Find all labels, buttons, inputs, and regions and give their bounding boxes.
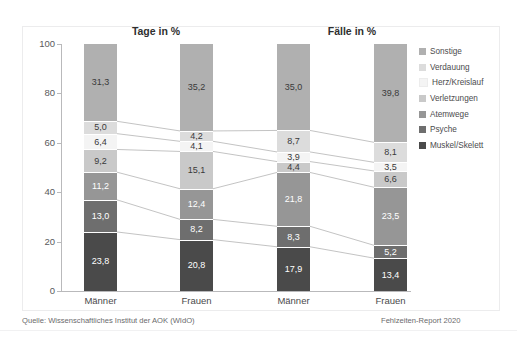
legend-item-label: Verletzungen [430,94,478,103]
y-axis-tick-label: 60 [15,137,55,148]
bar-segment-value: 35,0 [285,83,303,92]
bar-segment-value: 20,8 [188,261,206,270]
bar-segment: 23,5 [374,187,407,245]
source-note: Quelle: Wissenschaftliches Institut der … [22,316,195,325]
legend-swatch-icon [419,142,426,149]
legend-swatch-icon [419,64,426,71]
bar-segment: 4,4 [277,162,310,173]
bar-segment-value: 12,4 [188,200,206,209]
bar-segment-value: 8,7 [287,137,300,146]
legend-item-label: Sonstige [430,47,462,56]
bar-segment: 15,1 [180,151,213,188]
bar-segment: 20,8 [180,240,213,291]
y-axis-tick-label: 80 [15,87,55,98]
panel-title-tage: Tage in % [96,25,216,37]
x-axis-label: Frauen [346,295,436,306]
legend-item[interactable]: Atemwege [419,106,515,122]
report-note: Fehlzeiten-Report 2020 [381,316,460,325]
bar-segment: 8,1 [374,142,407,162]
stacked-bar: 31,35,06,49,211,213,023,8 [84,44,117,291]
legend-item[interactable]: Psyche [419,122,515,138]
y-axis-tick-label-wrap: 100 [10,44,55,45]
bar-segment-value: 3,9 [287,153,300,162]
bar-segment: 9,2 [84,149,117,172]
legend-swatch-icon [419,78,428,87]
y-axis-tick [57,291,62,292]
stacked-bar: 35,24,24,115,112,48,220,8 [180,44,213,291]
y-axis-tick-label-wrap: 20 [10,242,55,243]
bar-segment-value: 35,2 [188,83,206,92]
legend-item-label: Muskel/Skelett [430,141,483,150]
y-axis-tick [57,192,62,193]
x-axis-line [61,291,411,292]
bar-segment-value: 6,4 [94,138,107,147]
bar-segment: 35,2 [180,44,213,131]
bar-segment: 3,5 [374,162,407,171]
bar-segment: 17,9 [277,247,310,291]
y-axis-tick [57,44,62,45]
bar-segment-value: 23,5 [382,212,400,221]
legend-item-label: Herz/Kreislauf [432,78,483,87]
legend-item-label: Atemwege [430,110,469,119]
legend-item-label: Psyche [430,125,457,134]
y-axis-tick-label-wrap: 40 [10,192,55,193]
bar-segment-value: 4,4 [287,163,300,172]
legend-item[interactable]: Verletzungen [419,91,515,107]
legend-item[interactable]: Herz/Kreislauf [419,75,515,91]
x-axis-label: Männer [249,295,339,306]
bar-segment-value: 23,8 [92,257,110,266]
bar-segment: 5,2 [374,245,407,258]
y-axis-tick [57,143,62,144]
legend-swatch-icon [419,126,426,133]
y-axis-tick-label-wrap: 80 [10,93,55,94]
legend-item[interactable]: Sonstige [419,44,515,60]
bar-segment-value: 8,3 [287,233,300,242]
y-axis-line [61,44,62,291]
bottom-divider [0,330,517,331]
bar-segment-value: 5,2 [384,248,397,257]
y-axis-tick-label-wrap: 60 [10,143,55,144]
legend: SonstigeVerdauungHerz/KreislaufVerletzun… [419,44,515,153]
bar-segment: 13,4 [374,258,407,291]
bar-segment: 3,9 [277,152,310,162]
legend-item[interactable]: Verdauung [419,60,515,76]
panel-title-faelle: Fälle in % [292,25,412,37]
bar-segment-value: 6,6 [384,175,397,184]
legend-item[interactable]: Muskel/Skelett [419,138,515,154]
legend-swatch-icon [419,95,426,102]
bar-segment: 6,4 [84,134,117,150]
bar-segment-value: 4,2 [190,132,203,141]
bar-segment-value: 13,0 [92,212,110,221]
bar-segment: 39,8 [374,44,407,142]
bar-segment-value: 11,2 [92,182,109,191]
bar-segment-value: 13,4 [382,271,400,280]
legend-swatch-icon [419,48,426,55]
stacked-bar: 39,88,13,56,623,55,213,4 [374,44,407,291]
y-axis-tick-label: 0 [15,285,55,296]
stacked-bar: 35,08,73,94,421,88,317,9 [277,44,310,291]
y-axis-tick [57,93,62,94]
bar-segment: 6,6 [374,171,407,187]
legend-swatch-icon [419,111,426,118]
bar-segment: 8,3 [277,226,310,247]
legend-item-label: Verdauung [430,63,470,72]
bar-segment-value: 17,9 [285,265,303,274]
bar-segment-value: 15,1 [188,166,206,175]
bar-segment-value: 9,2 [94,157,107,166]
bar-segment-value: 39,8 [382,89,400,98]
bar-segment: 13,0 [84,200,117,232]
bar-segment: 35,0 [277,44,310,130]
y-axis-tick [57,242,62,243]
bar-segment: 21,8 [277,172,310,226]
bar-segment-value: 8,2 [190,225,203,234]
bar-segment: 4,1 [180,141,213,151]
y-axis-tick-label: 40 [15,186,55,197]
bar-segment-value: 31,3 [92,78,110,87]
y-axis-tick-label: 100 [15,38,55,49]
bar-segment: 8,2 [180,219,213,239]
bar-segment: 8,7 [277,130,310,151]
bar-segment: 23,8 [84,232,117,291]
y-axis-tick-label-wrap: 0 [10,291,55,292]
y-axis-tick-label: 20 [15,236,55,247]
bar-segment: 12,4 [180,189,213,220]
